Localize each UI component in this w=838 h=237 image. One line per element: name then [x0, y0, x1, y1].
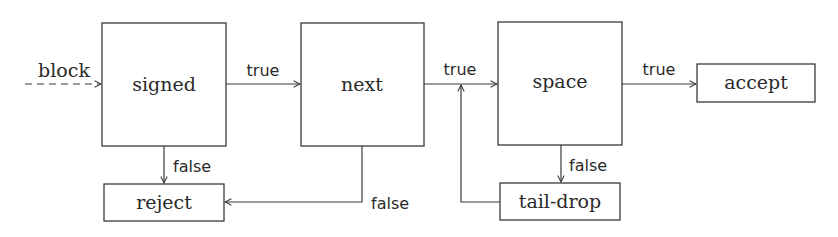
- node-signed: signed: [102, 23, 226, 146]
- edge-label-space-false: false: [569, 156, 607, 175]
- edge-label-next-true: true: [444, 60, 477, 79]
- node-accept: accept: [697, 64, 815, 102]
- edge-tail-drop-to-space-input: [461, 85, 500, 202]
- edge-label-block: block: [38, 59, 90, 81]
- node-space: space: [498, 22, 622, 145]
- node-tail-drop-label: tail-drop: [519, 190, 601, 212]
- node-next-label: next: [341, 73, 383, 95]
- node-accept-label: accept: [724, 71, 788, 93]
- node-reject-label: reject: [136, 191, 192, 213]
- node-tail-drop: tail-drop: [500, 183, 620, 220]
- edge-label-space-true: true: [643, 60, 676, 79]
- node-signed-label: signed: [132, 73, 196, 95]
- edge-label-next-false: false: [371, 194, 409, 213]
- edge-next-to-reject: [225, 146, 362, 202]
- node-reject: reject: [104, 184, 224, 221]
- flowchart-canvas: signed next space accept reject tail-dro…: [0, 0, 838, 237]
- node-next: next: [301, 23, 424, 146]
- edge-label-signed-false: false: [173, 157, 211, 176]
- node-space-label: space: [532, 70, 587, 92]
- edge-label-signed-true: true: [247, 61, 280, 80]
